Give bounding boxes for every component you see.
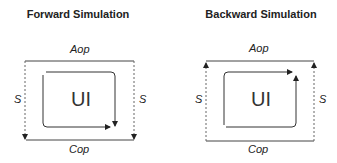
forward-cop-label: Cop: [69, 143, 89, 155]
backward-title: Backward Simulation: [186, 8, 336, 20]
forward-left-s-label: S: [14, 93, 21, 105]
forward-aop-label: Aop: [70, 43, 90, 55]
backward-left-s-label: S: [195, 93, 202, 105]
diagram-canvas: [0, 0, 337, 163]
backward-ui-label: UI: [251, 88, 271, 111]
backward-aop-label: Aop: [249, 42, 269, 54]
forward-right-s-label: S: [139, 93, 146, 105]
backward-cop-label: Cop: [248, 143, 268, 155]
forward-title: Forward Simulation: [3, 8, 153, 20]
backward-right-s-label: S: [319, 93, 326, 105]
forward-ui-label: UI: [71, 88, 91, 111]
